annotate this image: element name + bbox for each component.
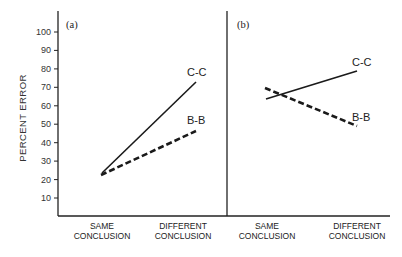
ytick-80: 80 bbox=[41, 64, 51, 74]
panel-b-cc-line bbox=[266, 71, 357, 99]
cat-a-diff-2: CONCLUSION bbox=[155, 231, 212, 241]
ytick-70: 70 bbox=[41, 82, 51, 92]
y-axis-title: PERCENT ERROR bbox=[17, 74, 28, 161]
panel-b-label: (b) bbox=[237, 19, 250, 31]
panel-a-bb-line bbox=[101, 131, 196, 175]
ytick-10: 10 bbox=[41, 193, 51, 203]
panel-a-categories: SAME CONCLUSION DIFFERENT CONCLUSION bbox=[74, 221, 212, 241]
ytick-50: 50 bbox=[41, 119, 51, 129]
ytick-30: 30 bbox=[41, 156, 51, 166]
chart-figure: PERCENT ERROR 100 90 80 70 60 50 40 30 2… bbox=[0, 0, 402, 257]
panel-a-bb-label: B-B bbox=[187, 114, 205, 126]
panel-b-bb-line bbox=[265, 88, 357, 126]
cat-b-same-2: CONCLUSION bbox=[239, 231, 296, 241]
panel-b-cc-label: C-C bbox=[352, 56, 372, 68]
cat-a-same-2: CONCLUSION bbox=[74, 231, 131, 241]
cat-a-same-1: SAME bbox=[90, 221, 114, 231]
ytick-90: 90 bbox=[41, 45, 51, 55]
ytick-40: 40 bbox=[41, 138, 51, 148]
panel-a-plot: C-C B-B bbox=[101, 66, 207, 175]
panel-a-cc-line bbox=[102, 82, 196, 173]
cat-b-same-1: SAME bbox=[255, 221, 279, 231]
panel-b-plot: C-C B-B bbox=[265, 56, 372, 126]
cat-b-diff-1: DIFFERENT bbox=[333, 221, 381, 231]
ytick-60: 60 bbox=[41, 101, 51, 111]
panel-a-cc-label: C-C bbox=[187, 66, 207, 78]
panel-b-bb-label: B-B bbox=[352, 111, 370, 123]
panel-a-label: (a) bbox=[66, 19, 78, 31]
ytick-100: 100 bbox=[36, 27, 51, 37]
y-tick-labels: 100 90 80 70 60 50 40 30 20 10 bbox=[36, 27, 51, 203]
panel-b-categories: SAME CONCLUSION DIFFERENT CONCLUSION bbox=[239, 221, 386, 241]
ytick-20: 20 bbox=[41, 175, 51, 185]
cat-a-diff-1: DIFFERENT bbox=[159, 221, 207, 231]
cat-b-diff-2: CONCLUSION bbox=[329, 231, 386, 241]
